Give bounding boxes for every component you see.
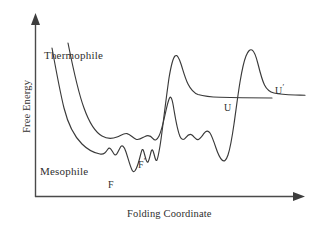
folded-mesophile-label: F — [108, 180, 114, 190]
thermophile-label: Thermophile — [44, 50, 103, 61]
folded-thermophile-label: F′ — [138, 158, 146, 170]
x-axis-label: Folding Coordinate — [127, 209, 212, 220]
arrow-up-icon — [31, 13, 40, 25]
unfolded-thermophile-label: U′ — [275, 84, 284, 96]
mesophile-label: Mesophile — [40, 166, 88, 177]
arrow-right-icon — [293, 192, 305, 201]
unfolded-thermophile-prime: ′ — [282, 83, 284, 92]
folded-thermophile-prime: ′ — [144, 157, 146, 166]
unfolded-mesophile-label: U — [224, 103, 231, 113]
y-axis-label: Free Energy — [22, 80, 33, 133]
mesophile-curve — [52, 48, 272, 172]
free-energy-landscape-figure: Folding Coordinate Free Energy Thermophi… — [0, 0, 319, 230]
plot-canvas — [0, 0, 319, 230]
